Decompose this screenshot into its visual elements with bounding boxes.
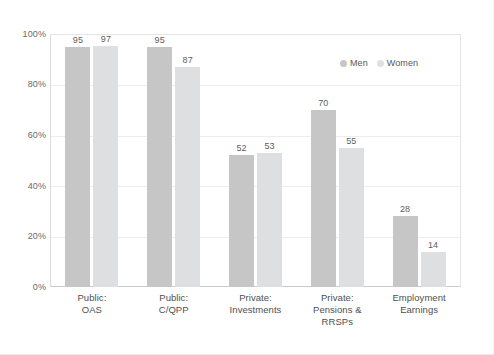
x-tick-employment-earnings-line2: Earnings — [378, 304, 460, 316]
legend-item-men[interactable]: Men — [340, 58, 368, 68]
bar-rect-men-public-oas[interactable] — [65, 47, 90, 287]
x-tick-public-oas: Public: OAS — [51, 292, 133, 328]
y-tick-label-80: 80% — [6, 79, 46, 89]
bar-group-private-investments: 52 53 — [215, 34, 297, 287]
bar-women-public-cqpp[interactable]: 87 — [175, 34, 200, 287]
legend-swatch-men-icon — [340, 60, 347, 67]
bar-value-women-private-investments: 53 — [264, 141, 274, 152]
y-tick-label-60: 60% — [6, 130, 46, 140]
legend-item-women[interactable]: Women — [377, 58, 418, 68]
bar-value-women-public-oas: 97 — [101, 34, 111, 45]
bar-men-private-investments[interactable]: 52 — [229, 34, 254, 287]
bar-rect-men-employment-earnings[interactable] — [393, 216, 418, 287]
legend-swatch-women-icon — [377, 60, 384, 67]
bar-value-women-public-cqpp: 87 — [183, 55, 193, 66]
x-tick-private-pensions-rrsps: Private: Pensions & RRSPs — [296, 292, 378, 328]
bar-value-men-private-investments: 52 — [236, 143, 246, 154]
bars-layer: 95 97 95 87 52 53 — [51, 34, 460, 287]
bar-value-men-public-oas: 95 — [73, 35, 83, 46]
bar-group-public-oas: 95 97 — [51, 34, 133, 287]
x-tick-employment-earnings: Employment Earnings — [378, 292, 460, 328]
bar-rect-women-public-oas[interactable] — [93, 46, 118, 287]
bar-value-men-public-cqpp: 95 — [155, 35, 165, 46]
bar-value-men-private-pensions-rrsps: 70 — [318, 98, 328, 109]
bar-rect-men-private-pensions-rrsps[interactable] — [311, 110, 336, 287]
bar-rect-men-public-cqpp[interactable] — [147, 47, 172, 287]
bar-women-private-investments[interactable]: 53 — [257, 34, 282, 287]
bar-value-women-employment-earnings: 14 — [428, 240, 438, 251]
bar-rect-women-public-cqpp[interactable] — [175, 67, 200, 287]
bar-men-private-pensions-rrsps[interactable]: 70 — [311, 34, 336, 287]
bar-chart-figure: 100% 80% 60% 40% 20% 0% 95 97 95 — [0, 0, 494, 355]
bar-men-public-oas[interactable]: 95 — [65, 34, 90, 287]
bar-rect-women-employment-earnings[interactable] — [421, 252, 446, 287]
bar-rect-men-private-investments[interactable] — [229, 155, 254, 287]
bar-women-public-oas[interactable]: 97 — [93, 34, 118, 287]
x-axis: Public: OAS Public: C/QPP Private: Inves… — [51, 292, 460, 328]
x-tick-private-pensions-rrsps-line2: Pensions & RRSPs — [296, 304, 378, 328]
bar-group-private-pensions-rrsps: 70 55 — [296, 34, 378, 287]
bar-rect-women-private-pensions-rrsps[interactable] — [339, 148, 364, 287]
y-tick-label-40: 40% — [6, 181, 46, 191]
y-tick-label-20: 20% — [6, 231, 46, 241]
bar-group-employment-earnings: 28 14 — [378, 34, 460, 287]
x-tick-public-oas-line2: OAS — [51, 304, 133, 316]
x-tick-public-oas-line1: Public: — [77, 292, 106, 303]
x-tick-private-pensions-rrsps-line1: Private: — [321, 292, 354, 303]
bar-women-employment-earnings[interactable]: 14 — [421, 34, 446, 287]
x-tick-private-investments-line1: Private: — [239, 292, 272, 303]
bar-value-men-employment-earnings: 28 — [400, 204, 410, 215]
bar-value-women-private-pensions-rrsps: 55 — [346, 136, 356, 147]
x-tick-private-investments: Private: Investments — [215, 292, 297, 328]
bar-rect-women-private-investments[interactable] — [257, 153, 282, 287]
bar-men-public-cqpp[interactable]: 95 — [147, 34, 172, 287]
legend-label-women: Women — [387, 58, 418, 68]
x-tick-employment-earnings-line1: Employment — [392, 292, 445, 303]
bar-women-private-pensions-rrsps[interactable]: 55 — [339, 34, 364, 287]
legend-label-men: Men — [350, 58, 368, 68]
bar-men-employment-earnings[interactable]: 28 — [393, 34, 418, 287]
bar-group-public-cqpp: 95 87 — [133, 34, 215, 287]
chart-legend: Men Women — [340, 58, 418, 68]
x-tick-public-cqpp-line1: Public: — [159, 292, 188, 303]
x-tick-public-cqpp: Public: C/QPP — [133, 292, 215, 328]
y-tick-label-100: 100% — [6, 29, 46, 39]
y-tick-label-0: 0% — [6, 282, 46, 292]
x-tick-public-cqpp-line2: C/QPP — [133, 304, 215, 316]
x-tick-private-investments-line2: Investments — [215, 304, 297, 316]
